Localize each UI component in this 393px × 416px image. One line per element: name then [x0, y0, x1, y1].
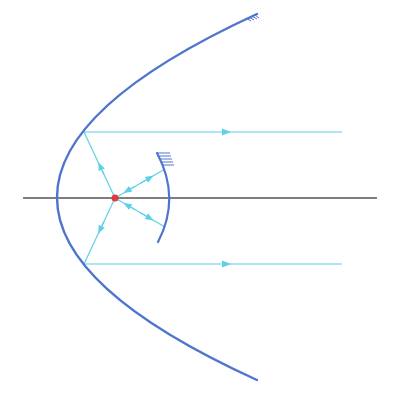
- focus-point: [112, 195, 119, 202]
- lower-focus-ray: [84, 198, 115, 264]
- parabolic-mirror: [57, 14, 257, 380]
- arrow-right-icon: [222, 129, 231, 136]
- upper-focus-ray: [84, 132, 115, 198]
- upper-parallel-ray: [84, 129, 342, 136]
- parabolic-reflector-diagram: [0, 0, 393, 416]
- lower-secondary-ray: [115, 198, 165, 227]
- arrow-right-icon: [222, 261, 231, 268]
- upper-secondary-ray: [115, 169, 165, 198]
- lower-parallel-ray: [84, 261, 342, 268]
